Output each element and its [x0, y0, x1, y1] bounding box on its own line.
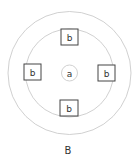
box-bottom: b — [60, 100, 78, 116]
box-right-label: b — [104, 69, 110, 79]
box-bottom-label: b — [66, 104, 72, 114]
diagram-caption: B — [0, 145, 136, 156]
box-top: b — [61, 29, 78, 45]
box-top-label: b — [67, 33, 73, 43]
box-left: b — [24, 64, 41, 80]
center-label: a — [67, 69, 73, 79]
box-right: b — [98, 65, 115, 81]
box-left-label: b — [30, 68, 36, 78]
concentric-diagram: a b b b b — [0, 0, 139, 163]
